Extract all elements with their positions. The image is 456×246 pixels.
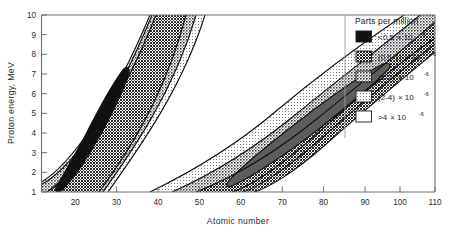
x-tick-label-30: 30 <box>112 198 122 207</box>
contour-field <box>42 15 436 192</box>
x-tick-label-70: 70 <box>278 198 288 207</box>
y-tick-label-1: 1 <box>31 188 36 197</box>
y-tick-label-7: 7 <box>31 70 36 79</box>
x-tick-label-80: 80 <box>319 198 329 207</box>
legend-swatch-gt-4 <box>356 111 372 122</box>
x-tick-label-40: 40 <box>153 198 163 207</box>
legend-exponent-0p5-1: -6 <box>431 51 436 57</box>
legend-exponent-2-4: -6 <box>424 91 429 97</box>
y-axis-title: Proton energy, MeV <box>6 62 16 144</box>
x-tick-label-110: 110 <box>428 198 441 207</box>
y-tick-label-10: 10 <box>27 11 37 20</box>
legend-swatch-1-2 <box>356 71 372 82</box>
y-tick-label-3: 3 <box>31 149 36 158</box>
contour-plot-figure: 10 9 8 7 6 5 4 3 2 1 20 30 40 50 60 70 8… <box>0 0 456 246</box>
legend-swatch-2-4 <box>356 91 372 102</box>
legend-exponent-gt-4: -6 <box>419 111 424 117</box>
y-tick-label-2: 2 <box>31 168 36 177</box>
legend-exponent-1-2: -6 <box>424 71 429 77</box>
legend-swatch-0p5-1 <box>356 51 372 62</box>
y-tick-label-5: 5 <box>31 109 36 118</box>
y-tick-label-8: 8 <box>31 50 36 59</box>
x-tick-label-50: 50 <box>195 198 205 207</box>
x-axis-title: Atomic number <box>207 216 269 226</box>
legend-title: Parts per million <box>355 16 419 26</box>
legend-label-gt-4: >4× 10 <box>378 113 406 122</box>
x-tick-label-20: 20 <box>71 198 81 207</box>
legend-exponent-lt-0p5: -6 <box>421 31 426 37</box>
x-tick-label-60: 60 <box>236 198 246 207</box>
x-tick-label-90: 90 <box>360 198 370 207</box>
x-tick-label-100: 100 <box>393 198 407 207</box>
legend-label-0p5-1: (0.5-1)× 10 <box>378 53 421 62</box>
y-tick-label-4: 4 <box>31 129 36 138</box>
legend-swatch-lt-0p5 <box>356 31 372 42</box>
y-tick-label-9: 9 <box>31 31 36 40</box>
y-tick-label-6: 6 <box>31 90 36 99</box>
